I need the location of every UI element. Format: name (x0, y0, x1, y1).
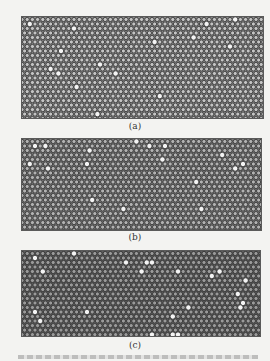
truncated-caption (18, 355, 258, 359)
panel-label-b: (b) (0, 232, 270, 242)
lattice-panel-b (21, 138, 262, 231)
lattice-panel-a (21, 16, 264, 119)
panel-label-a: (a) (0, 121, 270, 131)
lattice-panel-c (21, 250, 261, 337)
panel-label-c: (c) (0, 340, 270, 350)
